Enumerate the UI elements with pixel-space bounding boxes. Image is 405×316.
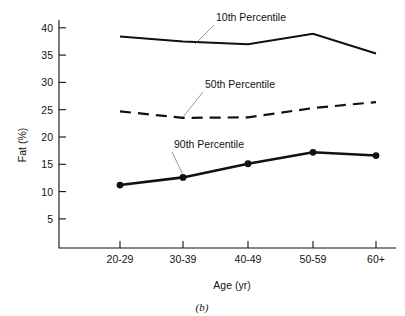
y-tick-label: 10 — [41, 186, 53, 198]
data-series — [117, 34, 380, 189]
y-tick-label: 35 — [41, 49, 53, 61]
axis-lines — [59, 20, 396, 248]
series-line — [120, 34, 376, 54]
data-point-marker — [117, 182, 124, 189]
x-tick-label: 30-39 — [170, 253, 197, 265]
y-tick-label: 20 — [41, 131, 53, 143]
axes — [59, 20, 396, 248]
series-1 — [120, 34, 376, 54]
series-line — [120, 152, 376, 185]
series-annotations: 10th Percentile50th Percentile90th Perce… — [172, 11, 286, 175]
y-axis: 510152025303540 — [41, 22, 66, 225]
annotation-leader-line — [183, 92, 203, 117]
series-2 — [120, 102, 376, 118]
fat-vs-age-line-chart: 510152025303540 20-2930-3940-4950-5960+ … — [0, 0, 405, 316]
x-tick-label: 40-49 — [235, 253, 262, 265]
x-tick-label: 20-29 — [107, 253, 134, 265]
figure-caption: (b) — [196, 301, 209, 314]
annotation-leader-line — [172, 152, 183, 175]
annotation-label: 10th Percentile — [216, 11, 286, 23]
data-point-marker — [245, 160, 252, 167]
x-tick-label: 60+ — [367, 253, 385, 265]
data-point-marker — [310, 149, 317, 156]
series-line — [120, 102, 376, 118]
annotation-leader-line — [195, 25, 214, 44]
x-axis-title: Age (yr) — [213, 279, 250, 291]
y-tick-label: 15 — [41, 158, 53, 170]
y-tick-label: 30 — [41, 76, 53, 88]
data-point-marker — [180, 174, 187, 181]
annotation-label: 90th Percentile — [174, 138, 244, 150]
y-tick-label: 5 — [47, 213, 53, 225]
y-axis-title: Fat (%) — [16, 128, 28, 162]
y-tick-label: 25 — [41, 104, 53, 116]
data-point-marker — [373, 152, 380, 159]
figure-panel: 510152025303540 20-2930-3940-4950-5960+ … — [0, 0, 405, 316]
y-tick-label: 40 — [41, 22, 53, 34]
series-3 — [117, 149, 380, 189]
annotation-label: 50th Percentile — [205, 78, 275, 90]
x-tick-label: 50-59 — [300, 253, 327, 265]
x-axis: 20-2930-3940-4950-5960+ — [107, 241, 385, 265]
